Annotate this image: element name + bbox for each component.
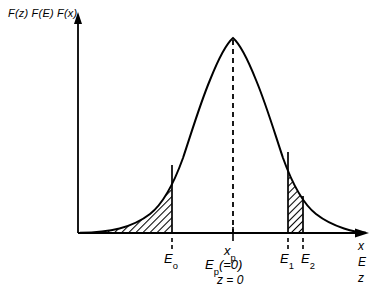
tick-label-e1-main: E [280,251,289,266]
tick-label-ep-main: E [205,257,214,272]
tick-label-e1-sub: 1 [289,261,294,271]
x-axis-label-x: x [358,240,364,252]
x-axis-label-z: z [358,272,364,284]
tick-label-ep-suffix: (=0) [219,257,242,272]
tick-label-e1: E1 [280,252,294,269]
tick-label-e0-main: E [164,251,173,266]
right-band-region [80,38,366,233]
tick-label-e0-sub: o [173,261,178,271]
x-axis-arrowhead [355,229,369,238]
tick-label-e2: E2 [301,252,315,269]
gaussian-curve [80,38,366,233]
tick-label-e2-main: E [301,251,310,266]
tick-label-e2-sub: 2 [310,261,315,271]
x-axis-label-e: E [358,256,366,268]
tick-label-z-equals-zero: z = 0 [217,274,243,286]
left-tail-region [80,38,366,233]
distribution-plot-svg [0,0,390,291]
tick-label-e0: Eo [164,252,178,269]
figure-container: F(z) F(E) F(x) Eo xp Ep(=0) z = 0 E1 E2 … [0,0,390,291]
tick-label-xp-main: x [224,243,231,258]
y-axis-label: F(z) F(E) F(x) [8,8,77,19]
